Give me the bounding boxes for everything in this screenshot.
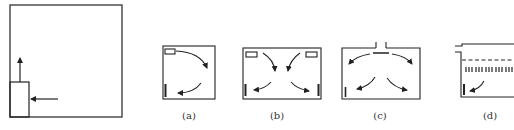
curved-arrow-icon: [178, 83, 201, 93]
curved-arrow-icon: [291, 82, 309, 91]
panel-c-label: (c): [373, 110, 386, 121]
supply-vent-left: [246, 52, 257, 57]
air-jets: [466, 67, 512, 72]
panel-d-label: (d): [483, 110, 497, 121]
supply-vent: [165, 49, 175, 54]
panel-c: [342, 42, 420, 99]
curved-arrow-icon: [357, 77, 375, 89]
inner-unit: [10, 82, 29, 117]
panel-b-label: (b): [270, 110, 284, 121]
curved-arrow-icon: [263, 53, 275, 71]
supply-vent-right: [306, 52, 317, 57]
curved-arrow-icon: [470, 81, 484, 91]
curved-arrow-icon: [254, 82, 271, 90]
panel-main: [10, 5, 122, 117]
curved-arrow-icon: [392, 54, 412, 64]
curved-arrow-icon: [176, 51, 207, 68]
curved-arrow-icon: [387, 78, 407, 90]
panel-a: [163, 46, 215, 99]
plenum-top: [455, 44, 514, 46]
panel-a-label: (a): [182, 110, 196, 121]
curved-arrow-icon: [288, 53, 300, 71]
airflow-diagram: [0, 0, 514, 130]
room-outline: [342, 48, 420, 99]
panel-b: [243, 48, 321, 99]
room-outline: [243, 48, 321, 99]
curved-arrow-icon: [349, 54, 370, 64]
panel-d: [455, 44, 514, 97]
room-outline: [10, 5, 122, 117]
